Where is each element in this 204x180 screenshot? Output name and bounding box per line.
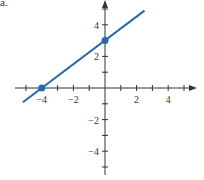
data-point <box>102 37 109 44</box>
y-tick-label: −4 <box>88 146 99 157</box>
x-tick-label: 4 <box>166 94 171 105</box>
y-axis-arrow-icon <box>102 0 108 8</box>
plot-area: −4−22442−2−4 <box>0 0 204 180</box>
x-tick-label: 2 <box>134 94 139 105</box>
x-tick-label: −4 <box>36 94 47 105</box>
x-axis-arrow-icon <box>189 85 197 91</box>
y-tick-label: −2 <box>88 115 99 126</box>
y-tick-label: 2 <box>94 51 99 62</box>
y-tick-label: 4 <box>94 20 99 31</box>
x-tick-label: −2 <box>68 94 79 105</box>
data-point <box>38 85 45 92</box>
